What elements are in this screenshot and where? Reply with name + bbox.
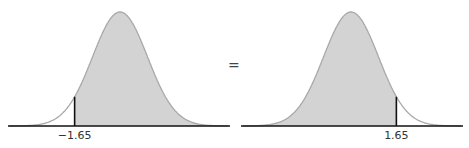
equals-sign: = [228, 57, 240, 73]
right-shaded-area [243, 12, 396, 126]
left-shaded-area [75, 12, 228, 126]
left-cutoff-label: −1.65 [58, 129, 92, 142]
left-normal-plot: −1.65 [8, 12, 230, 142]
right-normal-plot: 1.65 [241, 12, 463, 142]
right-cutoff-label: 1.65 [384, 129, 409, 142]
normal-curves-chart: −1.65 = 1.65 [0, 0, 469, 148]
